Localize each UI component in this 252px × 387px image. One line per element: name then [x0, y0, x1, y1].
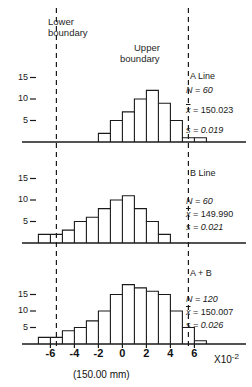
y-tick-label: 15 [6, 289, 28, 299]
panel-ab-s: s = 0.026 [186, 320, 223, 330]
panel-a-mean: x = 150.023 [186, 105, 233, 115]
lower-boundary-label: Lower [48, 16, 74, 27]
panel-title-a-line: A Line [190, 71, 215, 81]
y-tick-label: 5 [6, 115, 28, 125]
x-tick-label: 2 [136, 347, 156, 359]
y-tick-label: 15 [6, 72, 28, 82]
histogram-figure: Lower boundary Upper boundary A Line N =… [0, 0, 252, 387]
panel-title-b-line: B Line [190, 168, 216, 178]
x-tick-label: 0 [112, 347, 132, 359]
panel-b-s: s = 0.021 [186, 222, 223, 232]
y-tick-label: 15 [6, 173, 28, 183]
y-tick-label: 10 [6, 93, 28, 103]
y-tick-label: 10 [6, 305, 28, 315]
upper-boundary-label: Upper [134, 42, 160, 53]
lower-boundary-label-line2: boundary [48, 27, 88, 38]
y-tick-label: 10 [6, 194, 28, 204]
panel-ab-mean: x = 150.007 [186, 307, 233, 317]
y-tick-label: 5 [6, 216, 28, 226]
panel-a-n: N = 60 [186, 85, 213, 95]
histogram-outline [38, 196, 170, 243]
x-tick-label: -6 [40, 347, 60, 359]
x-axis-unit: X10-2 [214, 352, 239, 365]
x-tick-label: -2 [88, 347, 108, 359]
panel-b-mean: x = 149.990 [186, 209, 233, 219]
x-tick-label: 4 [160, 347, 180, 359]
panel-title-a-plus-b: A + B [190, 268, 212, 278]
panel-a-s: s = 0.019 [186, 125, 223, 135]
panel-ab-n: N = 120 [186, 294, 218, 304]
y-tick-label: 5 [6, 322, 28, 332]
x-tick-label: 6 [184, 347, 204, 359]
x-tick-label: -4 [64, 347, 84, 359]
panel-b-n: N = 60 [186, 196, 213, 206]
upper-boundary-label-line2: boundary [120, 53, 160, 64]
figure-caption: (150.00 mm) [73, 369, 130, 380]
